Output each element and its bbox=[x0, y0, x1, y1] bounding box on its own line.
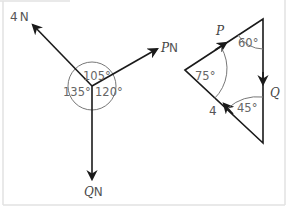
side-q-label: Q bbox=[270, 86, 280, 100]
angle-60-label: 60° bbox=[238, 36, 258, 50]
force-qn-label: QN bbox=[84, 185, 103, 199]
side-p-label: P bbox=[215, 24, 225, 38]
angle-105-label: 105° bbox=[83, 69, 111, 83]
force-4n-label: 4N bbox=[10, 10, 29, 24]
force-pn-label: PN bbox=[160, 41, 178, 55]
angle-75-arc bbox=[214, 47, 227, 99]
concurrent-forces-diagram: 4N PN QN 105° 135° 120° bbox=[10, 10, 178, 199]
triangle-of-forces-diagram: P Q 4 60° 75° 45° bbox=[185, 19, 280, 143]
angle-120-label: 120° bbox=[95, 85, 123, 99]
side-p-arrow bbox=[215, 43, 226, 50]
force-diagram-figure: 4N PN QN 105° 135° 120° P Q 4 60° 75° 45… bbox=[0, 0, 287, 207]
angle-45-label: 45° bbox=[237, 101, 257, 115]
angle-75-label: 75° bbox=[195, 69, 215, 83]
side-4-label: 4 bbox=[209, 104, 217, 118]
angle-135-label: 135° bbox=[63, 85, 91, 99]
